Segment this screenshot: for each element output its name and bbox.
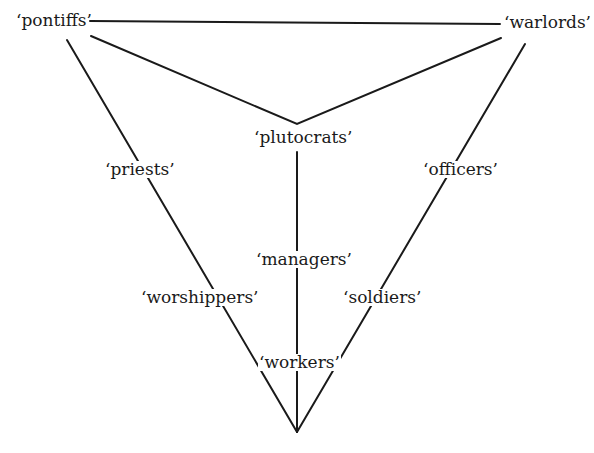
edge-pontiffs-warlords bbox=[90, 21, 500, 24]
node-workers: ‘workers’ bbox=[258, 354, 341, 371]
node-pontiffs: ‘pontiffs’ bbox=[16, 12, 92, 29]
edge-pontiffs-plutocrats-warlords bbox=[91, 36, 501, 124]
node-officers: ‘officers’ bbox=[422, 161, 499, 178]
node-warlords: ‘warlords’ bbox=[504, 14, 591, 31]
node-worshippers: ‘worshippers’ bbox=[140, 289, 260, 306]
edge-right-arm bbox=[297, 44, 525, 432]
node-plutocrats: ‘plutocrats’ bbox=[253, 129, 353, 146]
node-priests: ‘priests’ bbox=[104, 161, 176, 178]
diagram-lines bbox=[0, 0, 594, 453]
hierarchy-diagram: ‘pontiffs’ ‘warlords’ ‘plutocrats’ ‘prie… bbox=[0, 0, 594, 453]
node-soldiers: ‘soldiers’ bbox=[342, 289, 422, 306]
edge-left-arm bbox=[67, 40, 297, 432]
node-managers: ‘managers’ bbox=[255, 251, 353, 268]
